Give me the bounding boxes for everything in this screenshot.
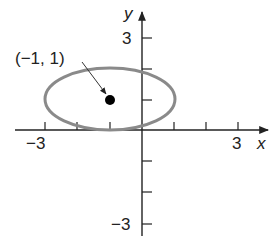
center-point (105, 95, 115, 105)
point-label: (−1, 1) (15, 50, 65, 67)
x-tick-label-max: 3 (232, 135, 241, 152)
y-ticks (142, 38, 152, 224)
coordinate-plane (0, 0, 273, 240)
y-tick-label-max: 3 (122, 30, 131, 47)
y-axis-label: y (124, 5, 133, 22)
x-axis-label: x (257, 135, 266, 152)
x-tick-label-min: −3 (26, 135, 45, 152)
y-tick-label-min: −3 (111, 216, 130, 233)
